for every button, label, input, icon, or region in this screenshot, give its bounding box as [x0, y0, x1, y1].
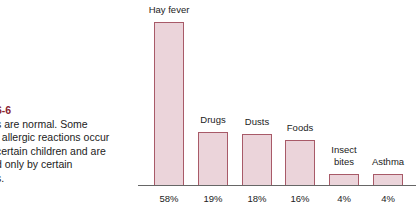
bar-asthma	[373, 174, 403, 185]
value-label: 4%	[368, 193, 408, 204]
x-axis-line	[138, 185, 416, 186]
value-label: 19%	[193, 193, 233, 204]
caption-line: s.	[0, 172, 140, 186]
value-label: 18%	[237, 193, 277, 204]
category-label: Hay fever	[139, 4, 199, 16]
caption-line: certain children and are	[0, 145, 140, 159]
value-label: 16%	[280, 193, 320, 204]
bar-drugs	[198, 132, 228, 185]
figure-label: 6-6	[0, 104, 140, 118]
value-label: 58%	[149, 193, 189, 204]
caption-line: s are normal. Some	[0, 118, 140, 132]
bar-foods	[285, 140, 315, 185]
bar-dusts	[242, 134, 272, 185]
bar-insect-bites	[329, 174, 359, 185]
caption-line: d only by certain	[0, 158, 140, 172]
caption-line: f allergic reactions occur	[0, 131, 140, 145]
category-label: Foods	[270, 122, 330, 134]
figure-caption: 6-6 s are normal. Some f allergic reacti…	[0, 104, 140, 185]
bar-hay-fever	[154, 22, 184, 185]
category-label: Asthma	[358, 156, 416, 168]
value-label: 4%	[324, 193, 364, 204]
